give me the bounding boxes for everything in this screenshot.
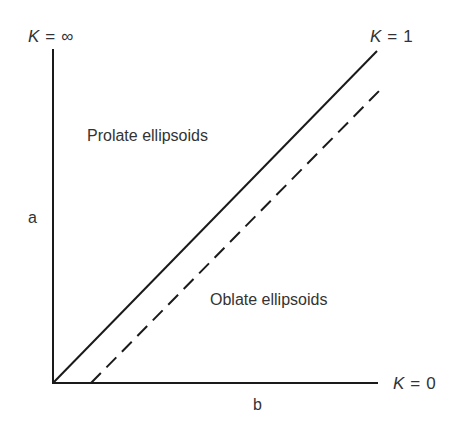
equals-sign: = xyxy=(387,27,397,46)
k-infinity-label: K=∞ xyxy=(28,28,73,45)
x-axis-label: b xyxy=(253,397,262,413)
k-variable: K xyxy=(28,27,39,46)
ellipsoid-diagram xyxy=(0,0,476,427)
k-equals-1-line xyxy=(53,51,377,383)
k-one-label: K=1 xyxy=(370,28,413,45)
k-variable: K xyxy=(393,374,404,393)
equals-sign: = xyxy=(410,374,420,393)
k-value: 0 xyxy=(426,374,435,393)
k-variable: K xyxy=(370,27,381,46)
k-zero-label: K=0 xyxy=(393,375,436,392)
k-value: ∞ xyxy=(61,27,73,46)
equals-sign: = xyxy=(45,27,55,46)
prolate-region-label: Prolate ellipsoids xyxy=(87,128,208,144)
y-axis-label: a xyxy=(28,210,37,226)
k-value: 1 xyxy=(403,27,412,46)
oblate-region-label: Oblate ellipsoids xyxy=(210,292,327,308)
